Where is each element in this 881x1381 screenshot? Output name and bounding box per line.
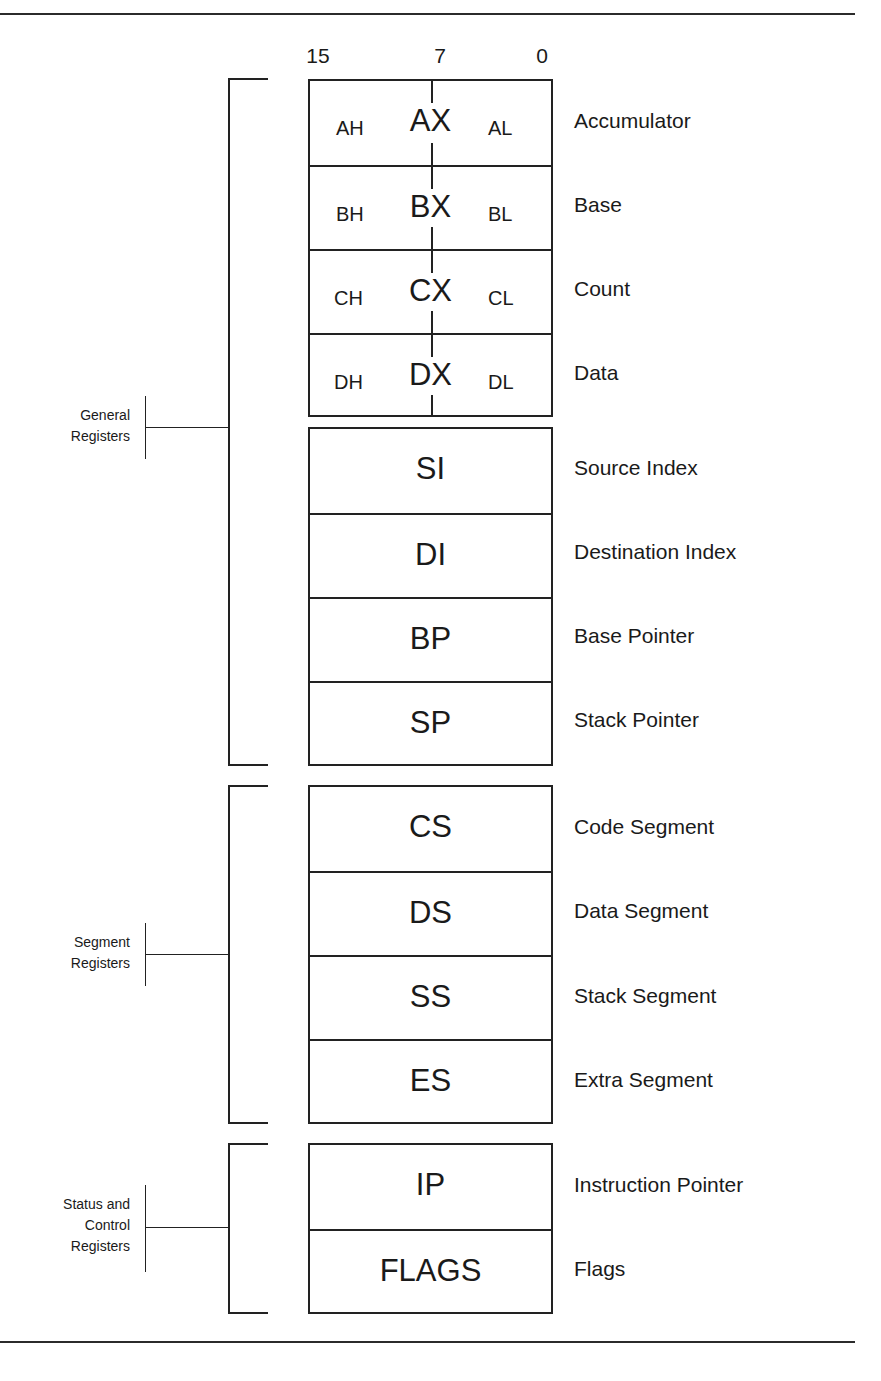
byte-divider-tick <box>431 143 433 165</box>
byte-divider-tick <box>431 335 433 357</box>
segment-registers-block: CS DS SS ES <box>308 785 553 1124</box>
segment-registers-connector-bar <box>145 923 146 986</box>
register-bl: BL <box>488 203 512 226</box>
segment-registers-label-line2: Registers <box>40 953 130 974</box>
byte-divider-tick <box>431 81 433 103</box>
desc-instruction-pointer: Instruction Pointer <box>574 1173 743 1197</box>
segment-registers-label: Segment Registers <box>40 932 130 974</box>
register-si: SI <box>310 429 551 513</box>
general-split-registers-block: AH AX AL BH BX BL CH CX CL DH DX DL <box>308 79 553 417</box>
desc-accumulator: Accumulator <box>574 109 691 133</box>
desc-base-pointer: Base Pointer <box>574 624 694 648</box>
register-bp-name: BP <box>310 621 551 657</box>
desc-stack-segment: Stack Segment <box>574 984 716 1008</box>
register-flags-name: FLAGS <box>310 1253 551 1289</box>
general-registers-label-line2: Registers <box>40 426 130 447</box>
byte-divider-tick <box>431 251 433 273</box>
register-sp-name: SP <box>310 705 551 741</box>
desc-destination-index: Destination Index <box>574 540 736 564</box>
desc-extra-segment: Extra Segment <box>574 1068 713 1092</box>
status-control-connector-bar <box>145 1185 146 1272</box>
register-di-name: DI <box>310 537 551 573</box>
byte-divider-tick <box>431 395 433 417</box>
status-control-registers-bracket <box>228 1143 268 1314</box>
register-ds-name: DS <box>310 895 551 931</box>
desc-stack-pointer: Stack Pointer <box>574 708 699 732</box>
desc-data-segment: Data Segment <box>574 899 708 923</box>
general-registers-label: General Registers <box>40 405 130 447</box>
segment-registers-bracket <box>228 785 268 1124</box>
status-control-connector <box>145 1227 229 1228</box>
desc-count: Count <box>574 277 630 301</box>
register-ip: IP <box>310 1145 551 1229</box>
status-control-registers-block: IP FLAGS <box>308 1143 553 1314</box>
register-flags: FLAGS <box>310 1229 551 1313</box>
register-cs-name: CS <box>310 809 551 845</box>
status-control-label-line2: Control <box>30 1215 130 1236</box>
bit-label-15: 15 <box>298 44 338 68</box>
status-control-label-line1: Status and <box>30 1194 130 1215</box>
register-ax-name: AX <box>310 103 551 139</box>
desc-flags: Flags <box>574 1257 625 1281</box>
register-al: AL <box>488 117 512 140</box>
register-cx: CH CX CL <box>310 249 551 333</box>
general-registers-bracket <box>228 78 268 766</box>
register-es-name: ES <box>310 1063 551 1099</box>
byte-divider-tick <box>431 167 433 189</box>
register-bx: BH BX BL <box>310 165 551 249</box>
register-ip-name: IP <box>310 1167 551 1203</box>
status-control-registers-label: Status and Control Registers <box>30 1194 130 1257</box>
general-registers-connector-bar <box>145 396 146 459</box>
register-di: DI <box>310 513 551 597</box>
desc-data: Data <box>574 361 618 385</box>
byte-divider-tick <box>431 227 433 249</box>
register-ss-name: SS <box>310 979 551 1015</box>
register-bx-name: BX <box>310 189 551 225</box>
general-registers-label-line1: General <box>40 405 130 426</box>
desc-base: Base <box>574 193 622 217</box>
register-cx-name: CX <box>310 273 551 309</box>
register-bp: BP <box>310 597 551 681</box>
register-ss: SS <box>310 955 551 1039</box>
segment-registers-label-line1: Segment <box>40 932 130 953</box>
register-es: ES <box>310 1039 551 1123</box>
register-cs: CS <box>310 787 551 871</box>
register-dx: DH DX DL <box>310 333 551 417</box>
segment-registers-connector <box>145 954 229 955</box>
byte-divider-tick <box>431 311 433 333</box>
register-ax: AH AX AL <box>310 81 551 165</box>
register-si-name: SI <box>310 451 551 487</box>
desc-code-segment: Code Segment <box>574 815 714 839</box>
general-registers-connector <box>145 427 229 428</box>
register-sp: SP <box>310 681 551 765</box>
general-index-registers-block: SI DI BP SP <box>308 427 553 766</box>
top-rule <box>0 13 855 15</box>
bit-label-7: 7 <box>420 44 460 68</box>
register-dx-name: DX <box>310 357 551 393</box>
register-dl: DL <box>488 371 514 394</box>
desc-source-index: Source Index <box>574 456 698 480</box>
bottom-rule <box>0 1341 855 1343</box>
bit-label-0: 0 <box>522 44 562 68</box>
register-ds: DS <box>310 871 551 955</box>
register-cl: CL <box>488 287 514 310</box>
status-control-label-line3: Registers <box>30 1236 130 1257</box>
